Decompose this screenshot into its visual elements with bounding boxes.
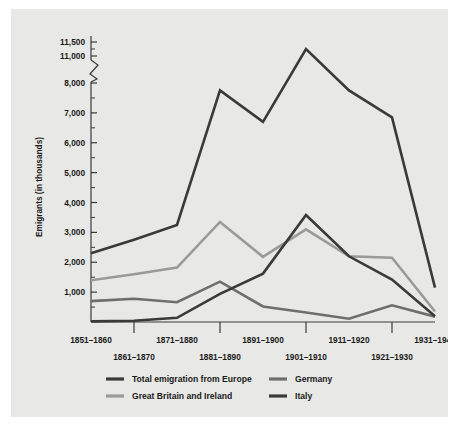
chart-figure: 1,0002,0003,0004,0005,0006,0007,0008,000… [11, 9, 448, 417]
series-line-total-emigration-from-europe [91, 49, 435, 288]
x-axis-tick-label: 1901–1910 [285, 352, 327, 362]
y-axis-tick-label: 2,000 [64, 257, 85, 267]
y-axis-title: Emigrants (in thousands) [34, 137, 44, 237]
legend-label: Italy [295, 391, 312, 401]
y-axis-tick-label: 11,000 [60, 51, 85, 61]
x-axis-tick-label: 1921–1930 [371, 352, 413, 362]
y-axis-tick-label: 4,000 [64, 198, 85, 208]
x-axis-tick-label: 1851–1860 [70, 335, 112, 345]
y-axis-tick-label: 7,000 [64, 108, 85, 118]
x-axis-tick-label: 1931–1940 [414, 335, 448, 345]
legend-label: Great Britain and Ireland [132, 391, 232, 401]
y-axis-tick-label: 1,000 [64, 287, 85, 297]
chart-plot-area: 1,0002,0003,0004,0005,0006,0007,0008,000… [11, 9, 448, 417]
x-axis-tick-label: 1881–1890 [199, 352, 241, 362]
legend-label: Total emigration from Europe [132, 374, 252, 384]
y-axis-tick-label: 6,000 [64, 138, 85, 148]
x-axis-tick-label: 1861–1870 [113, 352, 155, 362]
legend-label: Germany [295, 374, 332, 384]
y-axis-tick-label: 3,000 [64, 227, 85, 237]
x-axis-tick-label: 1891–1900 [242, 335, 284, 345]
line-chart-svg: 1,0002,0003,0004,0005,0006,0007,0008,000… [11, 9, 448, 417]
x-axis-tick-label: 1911–1920 [328, 335, 369, 345]
series-line-germany [91, 282, 435, 319]
series-line-great-britain-and-ireland [91, 222, 435, 312]
y-axis-tick-label: 5,000 [64, 168, 85, 178]
x-axis-tick-label: 1871–1880 [156, 335, 198, 345]
y-axis-tick-label: 8,000 [64, 78, 85, 88]
y-axis-tick-label: 11,500 [60, 37, 85, 47]
y-axis-break-glyph [90, 60, 98, 82]
